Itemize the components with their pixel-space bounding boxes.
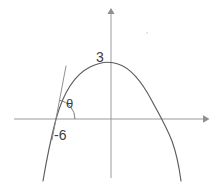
angle-theta-label: θ: [66, 97, 73, 110]
x-intercept-label: -6: [54, 128, 66, 142]
x-axis-arrowhead: [203, 115, 210, 123]
y-intercept-label: 3: [96, 50, 104, 64]
parabola-diagram: 3 -6 θ: [0, 0, 216, 185]
scan-speck: [146, 32, 148, 34]
y-axis-arrowhead: [107, 8, 114, 14]
diagram-canvas: [0, 0, 216, 185]
